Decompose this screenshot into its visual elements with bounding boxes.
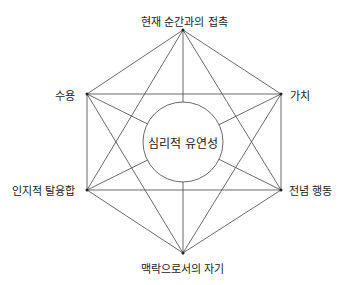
node-label-upper-right: 가치	[290, 87, 310, 103]
node-label-lower-left: 인지적 탈융합	[12, 182, 76, 198]
node-label-lower-right: 전념 행동	[289, 182, 333, 198]
node-label-upper-left: 수용	[55, 87, 75, 103]
node-label-top: 현재 순간과의 접촉	[141, 13, 228, 29]
center-label: 심리적 유연성	[148, 134, 218, 151]
node-label-bottom: 맥락으로서의 자기	[141, 260, 225, 276]
